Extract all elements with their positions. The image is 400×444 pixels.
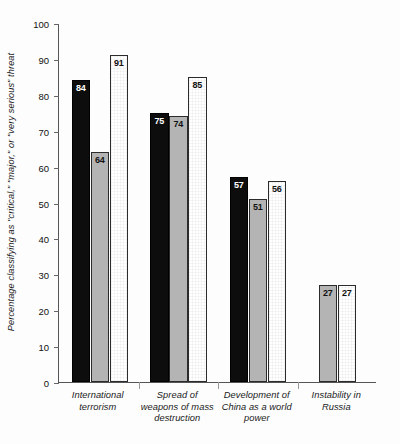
y-axis-tick-label: 60 [38,162,49,173]
bar-value-label: 75 [151,117,168,126]
x-axis-label: Spread ofweapons of massdestruction [138,390,218,425]
x-axis-label-line: Instability in [297,390,377,402]
x-axis-label-line: terrorism [58,402,138,414]
x-axis-label: Instability inRussia [297,390,377,413]
x-axis-label-line: Development of [217,390,297,402]
y-axis-tick-label: 40 [38,234,49,245]
y-axis-tick-label: 30 [38,270,49,281]
y-axis-tick-label: 20 [38,306,49,317]
bar-value-label: 57 [231,181,248,190]
y-axis-tick-label: 90 [38,54,49,65]
bar-value-label: 56 [269,185,286,194]
bar-white: 85 [188,77,207,382]
bar-black: 57 [230,177,249,382]
bar-gray: 64 [91,152,110,382]
bar-white: 91 [110,55,129,382]
bar-white: 27 [338,285,357,382]
x-axis-label-line: destruction [138,413,218,425]
bar-value-label: 27 [320,289,337,298]
y-axis-tick-label: 0 [44,378,49,389]
bar-value-label: 84 [73,84,90,93]
bar-gray: 74 [169,116,188,382]
category-separator-tick [139,382,140,389]
bar-gray: 51 [249,199,268,382]
bars-layer: 8464917574855751562727 [59,24,376,382]
category-separator-tick [218,382,219,389]
bar-value-label: 51 [250,203,267,212]
y-axis-tick-label: 70 [38,126,49,137]
bar-value-label: 64 [92,156,109,165]
bar-black: 84 [72,80,91,382]
bar-white: 56 [268,181,287,382]
x-axis-label: Internationalterrorism [58,390,138,413]
bar-black: 75 [150,113,169,382]
bar-chart: Percentage classifying as "critical," "m… [0,0,400,444]
x-axis-label-line: International [58,390,138,402]
y-axis-tick-label: 100 [33,19,49,30]
x-axis-label: Development ofChina as a worldpower [217,390,297,425]
x-axis-label-line: weapons of mass [138,402,218,414]
bar-gray: 27 [319,285,338,382]
x-axis-label-line: Russia [297,402,377,414]
bar-value-label: 74 [170,120,187,129]
x-axis-label-line: Spread of [138,390,218,402]
category-separator-tick [298,382,299,389]
bar-value-label: 91 [111,59,128,68]
x-axis-label-line: power [217,413,297,425]
y-axis-tick [54,383,59,384]
y-axis-tick-label: 10 [38,342,49,353]
y-axis-tick-label: 80 [38,90,49,101]
bar-value-label: 27 [339,289,356,298]
plot-area: 1009080706050403020100 84649175748557515… [58,24,376,383]
y-axis-tick-label: 50 [38,198,49,209]
bar-value-label: 85 [189,81,206,90]
y-axis-title: Percentage classifying as "critical," "m… [0,0,22,384]
x-axis-label-line: China as a world [217,402,297,414]
